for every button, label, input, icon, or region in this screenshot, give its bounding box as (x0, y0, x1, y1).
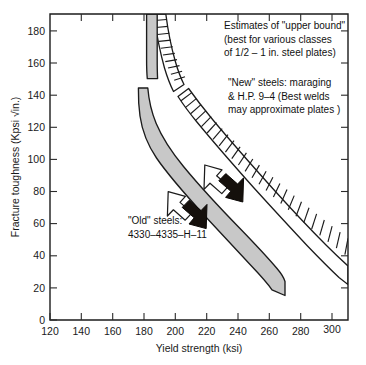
x-axis-title: Yield strength (ksi) (156, 342, 243, 354)
annotation-upper-bound-line-3: of 1/2 – 1 in. steel plates) (224, 47, 336, 58)
annotation-old-steels-line-2: 4330–4335–H–11 (128, 229, 207, 240)
y-tick-label-160: 160 (27, 57, 45, 69)
y-tick-label-100: 100 (27, 153, 45, 165)
y-tick-label-40: 40 (33, 249, 45, 261)
annotation-upper-bound: Estimates of "upper bound" (best for var… (224, 20, 346, 58)
y-tick-label-180: 180 (27, 25, 45, 37)
chart-svg: 0 20 40 60 80 100 120 140 160 180 (0, 0, 366, 365)
annotation-new-steels: "New" steels: maraging & H.P. 9–4 (Best … (228, 77, 340, 115)
annotation-upper-bound-line-1: Estimates of "upper bound" (224, 20, 346, 31)
x-tick-label-260: 260 (261, 325, 279, 337)
figure-canvas: 0 20 40 60 80 100 120 140 160 180 (0, 0, 366, 365)
y-tick-label-120: 120 (27, 121, 45, 133)
x-tick-label-200: 200 (167, 325, 185, 337)
annotation-old-steels-line-1: "Old" steels: (128, 215, 182, 226)
x-tick-label-120: 120 (41, 325, 59, 337)
annotation-new-steels-line-3: may approximate plates ) (228, 104, 340, 115)
x-tick-label-300: 300 (323, 323, 341, 335)
x-tick-label-180: 180 (135, 325, 153, 337)
x-tick-label-160: 160 (104, 325, 122, 337)
gray-band-segment-top (147, 14, 158, 79)
x-tick-label-280: 280 (292, 325, 310, 337)
annotation-upper-bound-line-2: (best for various classes (224, 34, 332, 45)
y-tick-label-80: 80 (33, 185, 45, 197)
y-tick-label-20: 20 (33, 282, 45, 294)
y-tick-label-60: 60 (33, 217, 45, 229)
y-tick-label-140: 140 (27, 89, 45, 101)
annotation-new-steels-line-2: & H.P. 9–4 (Best welds (228, 91, 330, 102)
x-tick-label-140: 140 (73, 325, 91, 337)
x-tick-label-240: 240 (229, 325, 247, 337)
annotation-new-steels-line-1: "New" steels: maraging (228, 77, 331, 88)
y-axis-title: Fracture toughness (Kpsi √in.) (9, 97, 21, 238)
x-tick-label-220: 220 (198, 325, 216, 337)
